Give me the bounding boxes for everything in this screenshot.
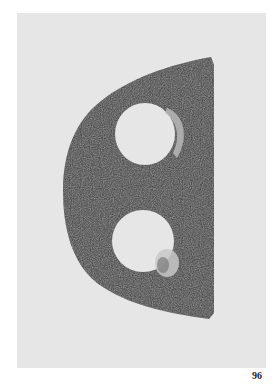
- artifact-body: [63, 57, 214, 319]
- page-number: 96: [252, 370, 262, 381]
- photo-plate: [17, 13, 266, 368]
- artifact-photo: [17, 13, 266, 368]
